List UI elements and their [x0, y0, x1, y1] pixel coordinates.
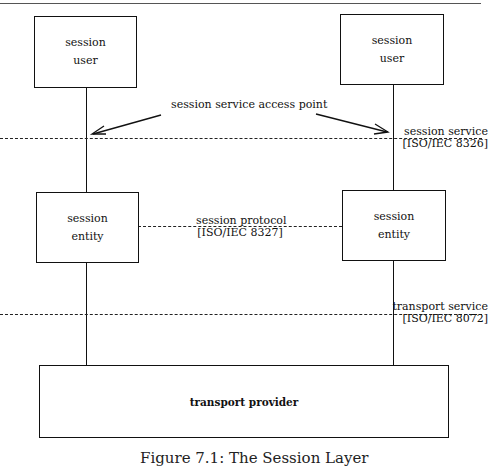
transport-provider-box: transport provider [39, 365, 449, 438]
transport-service-std: [ISO/IEC 8072] [392, 313, 488, 325]
right-user-line1: session [372, 32, 413, 50]
left-session-entity-box: session entity [36, 192, 139, 263]
left-user-line1: session [65, 34, 106, 52]
left-user-line2: user [73, 52, 98, 70]
right-session-user-box: session user [340, 14, 444, 85]
right-user-line2: user [380, 50, 405, 68]
session-service-std: [ISO/IEC 8326] [403, 138, 488, 150]
right-entity-line1: session [374, 208, 415, 226]
right-arrow-icon [316, 114, 388, 134]
session-protocol-label: session protocol [ISO/IEC 8327] [196, 215, 284, 239]
transport-service-label: transport service [ISO/IEC 8072] [392, 301, 488, 325]
session-protocol-std: [ISO/IEC 8327] [196, 227, 284, 239]
figure-caption: Figure 7.1: The Session Layer [140, 449, 369, 467]
right-session-entity-box: session entity [342, 190, 446, 261]
left-arrow-icon [92, 115, 161, 134]
session-service-label: session service [ISO/IEC 8326] [403, 126, 488, 150]
right-entity-line2: entity [378, 226, 410, 244]
access-point-label: session service access point [171, 99, 327, 111]
transport-provider-label: transport provider [190, 393, 299, 411]
left-entity-line1: session [67, 210, 108, 228]
left-entity-line2: entity [71, 228, 103, 246]
left-session-user-box: session user [34, 16, 137, 88]
